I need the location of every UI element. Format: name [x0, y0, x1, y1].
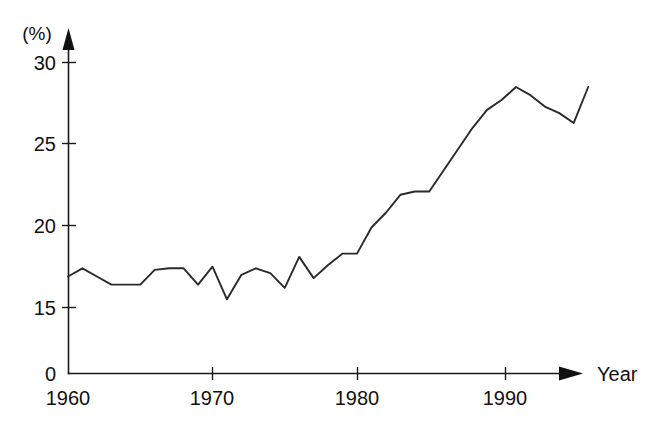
y-axis-label-20: 20 — [34, 215, 56, 237]
chart-container: 30 25 20 15 0 1960 1970 1980 1990 (%) Ye… — [0, 0, 657, 431]
y-axis-arrow-icon — [63, 28, 75, 50]
y-axis-label-25: 25 — [34, 133, 56, 155]
line-chart: 30 25 20 15 0 1960 1970 1980 1990 (%) Ye… — [0, 0, 657, 431]
x-axis-label-1970: 1970 — [190, 387, 235, 409]
x-axis-arrow-icon — [559, 367, 583, 381]
y-axis-label-30: 30 — [34, 52, 56, 74]
x-axis-label-1960: 1960 — [46, 387, 91, 409]
x-axis-label-1980: 1980 — [335, 387, 380, 409]
data-series-line — [68, 87, 588, 299]
x-axis-title: Year — [597, 363, 638, 385]
x-axis-label-1990: 1990 — [483, 387, 528, 409]
y-axis-label-0: 0 — [45, 363, 56, 385]
y-axis-label-15: 15 — [34, 297, 56, 319]
y-axis-unit-label: (%) — [22, 23, 52, 44]
